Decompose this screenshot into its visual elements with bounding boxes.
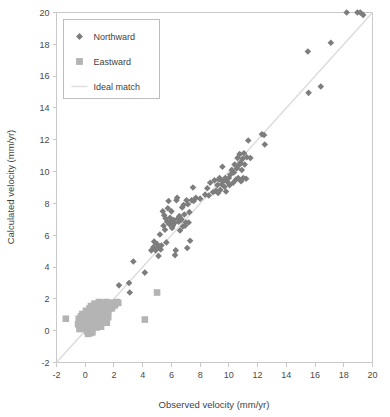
y-tick-label: 14 bbox=[39, 103, 49, 113]
y-tick-label: 6 bbox=[44, 231, 49, 241]
data-point-eastward bbox=[142, 316, 149, 323]
y-axis-title: Calculated velocity (mm/yr) bbox=[5, 130, 16, 245]
data-point-eastward bbox=[105, 314, 112, 321]
x-tick-label: 14 bbox=[281, 370, 291, 380]
x-tick-label: 0 bbox=[83, 370, 88, 380]
data-point-eastward bbox=[63, 315, 70, 322]
x-tick-label: 8 bbox=[198, 370, 203, 380]
y-tick-label: 10 bbox=[39, 167, 49, 177]
data-point-eastward bbox=[154, 289, 161, 296]
y-tick-label: 18 bbox=[39, 40, 49, 50]
y-tick-label: 12 bbox=[39, 135, 49, 145]
legend-marker-square-icon bbox=[76, 58, 83, 65]
x-tick-label: 6 bbox=[169, 370, 174, 380]
y-tick-label: 20 bbox=[39, 8, 49, 18]
x-tick-label: 18 bbox=[339, 370, 349, 380]
y-tick-label: -2 bbox=[41, 358, 49, 368]
x-tick-label: 12 bbox=[253, 370, 263, 380]
x-tick-label: 4 bbox=[140, 370, 145, 380]
legend-item-label: Northward bbox=[94, 32, 136, 42]
legend-item-label: Eastward bbox=[94, 57, 132, 67]
y-tick-label: 0 bbox=[44, 326, 49, 336]
y-tick-label: 2 bbox=[44, 294, 49, 304]
x-tick-label: 2 bbox=[111, 370, 116, 380]
y-tick-label: 8 bbox=[44, 199, 49, 209]
scatter-chart: -202468101214161820 -202468101214161820 … bbox=[0, 0, 390, 417]
x-tick-label: 16 bbox=[310, 370, 320, 380]
data-point-eastward bbox=[115, 300, 122, 307]
x-tick-label: 10 bbox=[224, 370, 234, 380]
x-tick-label: 20 bbox=[367, 370, 377, 380]
chart-canvas: -202468101214161820 -202468101214161820 … bbox=[0, 0, 390, 417]
chart-legend: NorthwardEastwardIdeal match bbox=[64, 20, 160, 99]
x-axis-title: Observed velocity (mm/yr) bbox=[159, 399, 270, 410]
y-tick-label: 16 bbox=[39, 71, 49, 81]
y-tick-label: 4 bbox=[44, 262, 49, 272]
data-point-eastward bbox=[84, 328, 91, 335]
x-tick-label: -2 bbox=[52, 370, 60, 380]
legend-item-label: Ideal match bbox=[94, 82, 141, 92]
